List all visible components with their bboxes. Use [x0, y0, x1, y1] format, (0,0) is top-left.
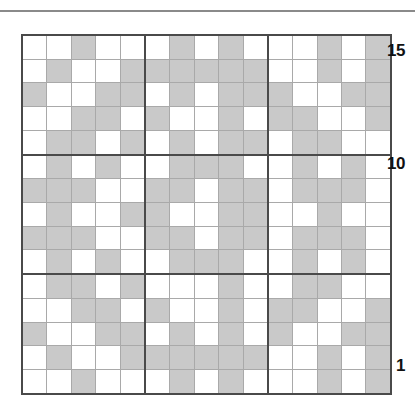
grid-cell[interactable] [366, 107, 391, 131]
grid-cell[interactable] [47, 203, 71, 227]
grid-cell[interactable] [145, 298, 170, 322]
grid-cell[interactable] [293, 370, 317, 394]
grid-cell[interactable] [120, 59, 145, 83]
grid-cell[interactable] [120, 35, 145, 59]
grid-cell[interactable] [342, 179, 366, 203]
grid-cell[interactable] [145, 35, 170, 59]
grid-cell[interactable] [219, 35, 243, 59]
grid-cell[interactable] [96, 250, 120, 274]
grid-cell[interactable] [47, 59, 71, 83]
grid-cell[interactable] [219, 203, 243, 227]
grid-cell[interactable] [219, 107, 243, 131]
grid-cell[interactable] [219, 226, 243, 250]
grid-cell[interactable] [71, 322, 95, 346]
grid-cell[interactable] [243, 59, 268, 83]
grid-cell[interactable] [71, 203, 95, 227]
grid-cell[interactable] [268, 107, 293, 131]
grid-cell[interactable] [317, 274, 341, 298]
grid-cell[interactable] [342, 274, 366, 298]
grid-cell[interactable] [47, 274, 71, 298]
grid-cell[interactable] [342, 250, 366, 274]
grid-cell[interactable] [22, 370, 47, 394]
grid-cell[interactable] [268, 130, 293, 154]
grid-cell[interactable] [145, 83, 170, 107]
grid-cell[interactable] [194, 59, 218, 83]
grid-cell[interactable] [96, 83, 120, 107]
grid-cell[interactable] [170, 59, 194, 83]
grid-cell[interactable] [170, 346, 194, 370]
grid-cell[interactable] [170, 130, 194, 154]
grid-cell[interactable] [366, 346, 391, 370]
grid-cell[interactable] [366, 179, 391, 203]
grid-cell[interactable] [145, 226, 170, 250]
grid-cell[interactable] [194, 370, 218, 394]
grid-cell[interactable] [342, 203, 366, 227]
grid-cell[interactable] [22, 59, 47, 83]
grid-cell[interactable] [120, 250, 145, 274]
grid-cell[interactable] [194, 203, 218, 227]
grid-cell[interactable] [145, 179, 170, 203]
grid-cell[interactable] [317, 298, 341, 322]
grid-cell[interactable] [342, 155, 366, 179]
grid-cell[interactable] [22, 322, 47, 346]
grid-cell[interactable] [71, 346, 95, 370]
grid-cell[interactable] [96, 203, 120, 227]
grid-cell[interactable] [194, 346, 218, 370]
grid-cell[interactable] [120, 322, 145, 346]
grid-cell[interactable] [96, 130, 120, 154]
grid-cell[interactable] [219, 346, 243, 370]
grid-cell[interactable] [243, 107, 268, 131]
grid-cell[interactable] [194, 107, 218, 131]
grid-cell[interactable] [366, 274, 391, 298]
grid-cell[interactable] [293, 107, 317, 131]
grid-cell[interactable] [47, 322, 71, 346]
grid-cell[interactable] [243, 35, 268, 59]
grid-cell[interactable] [366, 370, 391, 394]
grid-cell[interactable] [120, 370, 145, 394]
grid-cell[interactable] [22, 107, 47, 131]
grid-cell[interactable] [120, 179, 145, 203]
grid-cell[interactable] [366, 203, 391, 227]
grid-cell[interactable] [268, 226, 293, 250]
grid-cell[interactable] [293, 179, 317, 203]
grid-cell[interactable] [145, 322, 170, 346]
grid-cell[interactable] [47, 35, 71, 59]
grid-cell[interactable] [96, 107, 120, 131]
grid-cell[interactable] [317, 346, 341, 370]
grid-cell[interactable] [366, 226, 391, 250]
grid-cell[interactable] [317, 107, 341, 131]
grid-cell[interactable] [71, 274, 95, 298]
grid-cell[interactable] [145, 130, 170, 154]
grid-cell[interactable] [71, 59, 95, 83]
grid-cell[interactable] [342, 346, 366, 370]
grid-cell[interactable] [293, 35, 317, 59]
grid-cell[interactable] [71, 370, 95, 394]
grid-cell[interactable] [317, 203, 341, 227]
grid-cell[interactable] [22, 298, 47, 322]
grid-cell[interactable] [293, 298, 317, 322]
grid-cell[interactable] [342, 35, 366, 59]
grid-cell[interactable] [145, 274, 170, 298]
grid-cell[interactable] [47, 298, 71, 322]
grid-cell[interactable] [194, 130, 218, 154]
grid-cell[interactable] [145, 370, 170, 394]
grid-cell[interactable] [71, 83, 95, 107]
grid-cell[interactable] [96, 155, 120, 179]
grid-cell[interactable] [366, 130, 391, 154]
grid-cell[interactable] [71, 155, 95, 179]
grid-cell[interactable] [47, 370, 71, 394]
grid-cell[interactable] [194, 226, 218, 250]
grid-cell[interactable] [71, 226, 95, 250]
grid-cell[interactable] [268, 322, 293, 346]
grid-cell[interactable] [219, 155, 243, 179]
grid-cell[interactable] [120, 107, 145, 131]
grid-cell[interactable] [145, 250, 170, 274]
grid-cell[interactable] [268, 179, 293, 203]
grid-cell[interactable] [366, 250, 391, 274]
grid-cell[interactable] [96, 226, 120, 250]
grid-cell[interactable] [120, 298, 145, 322]
grid-cell[interactable] [293, 130, 317, 154]
grid-cell[interactable] [317, 179, 341, 203]
grid-cell[interactable] [170, 370, 194, 394]
grid-cell[interactable] [317, 59, 341, 83]
